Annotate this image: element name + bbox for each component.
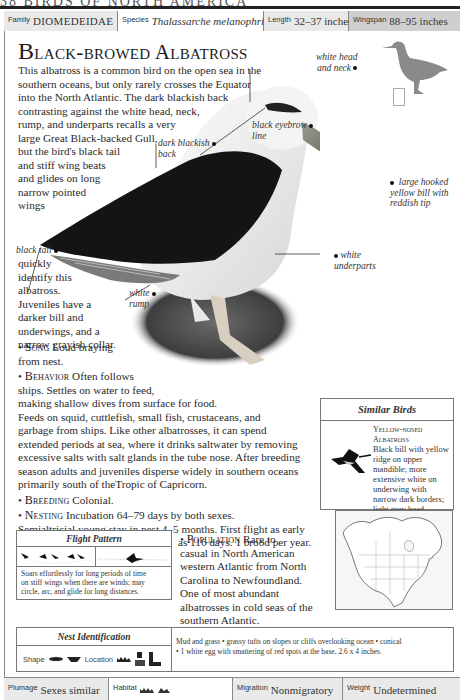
- breeding-heading: Breeding: [25, 493, 70, 507]
- population-section: • Population Rare to casual in North Ame…: [180, 533, 320, 628]
- song-heading: Song: [25, 340, 50, 354]
- flat-nest-icon: [49, 656, 63, 662]
- nest-desc-line: Mud and grass • grassy tufts on slopes o…: [176, 637, 449, 647]
- header-rule: [0, 6, 460, 9]
- flight-pattern-title: Flight Pattern: [17, 531, 171, 547]
- callout-text: large hooked: [399, 177, 449, 187]
- similar-bird-description: Black bill with yellow ridge on upper ma…: [373, 444, 453, 514]
- breeding-section: • Breeding Colonial.: [18, 494, 318, 508]
- nesting-heading: Nesting: [25, 508, 64, 522]
- intro-line: This albatross is a common bird on the o…: [18, 64, 308, 78]
- intro-line: rump, and underparts recalls a very: [18, 118, 308, 132]
- weight-label: Weight: [347, 683, 370, 692]
- similar-desc-line: narrow dark borders;: [373, 494, 453, 504]
- intro-line: but the bird's black tail: [18, 145, 308, 159]
- behavior-heading: Behavior: [25, 369, 70, 383]
- intro-line: and stiff wing beats: [18, 159, 308, 173]
- behavior-text: season adults and juveniles disperse wid…: [18, 465, 318, 479]
- breeding-text: Colonial.: [72, 494, 113, 506]
- nesting-section: • Nesting Incubation 64–79 days by both …: [18, 509, 318, 523]
- soaring-birds-icon: [17, 547, 96, 567]
- flight-desc-line: Soars effortlessly for long periods of t…: [21, 569, 167, 578]
- similar-birds-title: Similar Birds: [321, 399, 453, 421]
- population-text: Rare to: [243, 533, 276, 545]
- intro-line: southern oceans, but only rarely crosses…: [18, 78, 308, 92]
- callout-text: white: [340, 250, 361, 260]
- location-label: Location: [85, 655, 113, 664]
- flight-desc-line: on stiff wings when there are winds; may: [21, 578, 167, 587]
- population-text: casual in North American: [180, 547, 320, 561]
- shape-label: Shape: [23, 655, 45, 664]
- cliff-location-icon: [149, 652, 161, 666]
- intro-line: large Great Black-backed Gull,: [18, 132, 308, 146]
- species-value: Thalassarche melanophris: [152, 15, 269, 27]
- callout-dot: [390, 181, 394, 185]
- tail-line: identify this: [18, 271, 178, 285]
- length-value: 32–37 inches: [294, 15, 352, 27]
- tail-line: albatross.: [18, 284, 178, 298]
- intro-line: contrasting against the white head, neck…: [18, 105, 308, 119]
- tail-line: darker bill and: [18, 311, 178, 325]
- footer-bar: Plumage Sexes similar Habitat Migration …: [4, 677, 460, 700]
- callout-white-head: white head and neck: [316, 52, 357, 73]
- behavior-section: • Behavior Often follows: [18, 370, 318, 384]
- habitat-cell: Habitat: [109, 678, 233, 700]
- nesting-text: Incubation 64–79 days by both sexes.: [66, 509, 234, 521]
- callout-text: yellow bill with: [390, 188, 449, 199]
- flight-pattern-description: Soars effortlessly for long periods of t…: [17, 567, 171, 598]
- flight-pattern-box: Flight Pattern Soars effortlessly for lo…: [16, 530, 172, 600]
- flight-desc-line: circle, arc, and glide for long distance…: [21, 587, 167, 596]
- similar-desc-line: extensive white on: [373, 474, 453, 484]
- similar-desc-line: Black bill with yellow: [373, 444, 453, 454]
- population-text: western Atlantic from North: [180, 560, 320, 574]
- population-heading: Population: [187, 532, 241, 546]
- song-text: Loud braying: [52, 341, 113, 353]
- similar-bird-name-line: Yellow-nosed: [373, 425, 422, 435]
- behavior-text: making shallow dives from surface for fo…: [18, 397, 318, 411]
- callout-text: white head: [316, 52, 357, 63]
- cup-nest-icon: [67, 655, 81, 663]
- nest-identification-left: Nest Identification Shape Location: [17, 628, 172, 671]
- nest-identification-box: Nest Identification Shape Location Mud a…: [16, 627, 454, 672]
- intro-paragraph: This albatross is a common bird on the o…: [18, 64, 308, 213]
- habitat-label: Habitat: [113, 683, 137, 692]
- range-map: [335, 510, 453, 610]
- intro-line: and glides on long: [18, 172, 308, 186]
- callout-text: reddish tip: [390, 198, 449, 209]
- intro-line: wings: [18, 199, 308, 213]
- family-label: Family: [8, 15, 30, 24]
- behavior-text: primarily south of theTropic of Capricor…: [18, 478, 318, 492]
- callout-text: underparts: [334, 261, 376, 272]
- nest-identification-title: Nest Identification: [17, 628, 171, 646]
- callout-text: black tail: [16, 245, 52, 255]
- callout-white-underparts: white underparts: [334, 250, 376, 271]
- plumage-label: Plumage: [8, 683, 38, 692]
- yellow-nosed-albatross-icon: [329, 443, 373, 477]
- weight-cell: Weight Undetermined: [343, 678, 460, 700]
- family-value: DIOMEDEIDAE: [33, 15, 113, 27]
- similar-desc-line: ridge on upper: [373, 454, 453, 464]
- plumage-value: Sexes similar: [41, 684, 100, 696]
- flight-pattern-illustrations: [17, 547, 171, 567]
- family-cell: Family DIOMEDEIDAE: [4, 11, 118, 31]
- behavior-text: extended periods at sea, where it drinks…: [18, 438, 318, 452]
- intro-line: into the North Atlantic. The dark blacki…: [18, 91, 308, 105]
- population-text: One of most abundant: [180, 587, 320, 601]
- callout-dot: [353, 66, 357, 70]
- species-cell: Species Thalassarche melanophris: [118, 11, 264, 31]
- tail-line: quickly: [18, 257, 178, 271]
- callout-dot: [54, 249, 58, 253]
- grass-location-icon: [117, 656, 131, 662]
- migration-value: Nonmigratory: [271, 684, 333, 696]
- coast-icon: [158, 687, 170, 693]
- population-text: albatrosses in cold seas of the: [180, 601, 320, 615]
- nest-shape-row: Shape Location: [17, 646, 171, 672]
- similar-birds-box: Similar Birds Yellow-nosed Albatross Bla…: [320, 398, 454, 510]
- behavior-text: Often follows: [72, 370, 134, 382]
- callout-dot: [334, 254, 338, 258]
- behavior-text: garbage from ships. Like other albatross…: [18, 424, 318, 438]
- callout-dot: [309, 124, 313, 128]
- plumage-cell: Plumage Sexes similar: [4, 678, 109, 700]
- tail-line: Juveniles have a: [18, 298, 178, 312]
- migration-cell: Migration Nonmigratory: [233, 678, 343, 700]
